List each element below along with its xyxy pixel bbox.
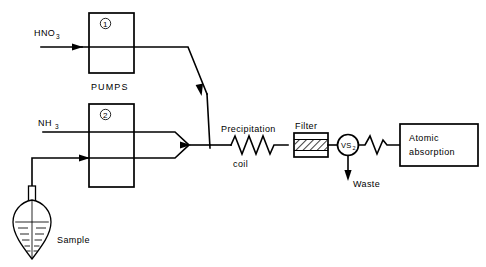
- detector-group: Atomic absorption: [400, 124, 478, 166]
- nh3-subscript: 3: [55, 123, 59, 130]
- pump-two-box: [89, 104, 134, 187]
- pump-one-box: [89, 13, 134, 73]
- sample-flask-group: Sample: [13, 186, 90, 259]
- hno3-subscript: 3: [56, 33, 60, 40]
- nh3-label: NH: [38, 118, 52, 128]
- flow-injection-diagram: 1 HNO 3 PUMPS 2 NH 3: [0, 0, 486, 267]
- pump-one-group: 1: [89, 13, 134, 73]
- precipitation-coil: [231, 136, 288, 154]
- hno3-descent-line: [207, 94, 210, 148]
- valve-group: VS 2: [338, 135, 359, 156]
- waste-arrowhead: [344, 170, 351, 181]
- pumps-label: PUMPS: [91, 82, 129, 92]
- detector-label-line2: absorption: [409, 147, 455, 157]
- diagram-canvas: 1 HNO 3 PUMPS 2 NH 3: [0, 0, 486, 267]
- pump-one-number: 1: [103, 20, 108, 29]
- filter-label: Filter: [295, 121, 317, 131]
- precipitation-coil-label-line2: coil: [233, 159, 248, 169]
- filter-membrane-hatch: [295, 140, 327, 151]
- valve-subscript: 2: [353, 145, 356, 151]
- sample-label: Sample: [57, 235, 90, 245]
- waste-label: Waste: [353, 179, 380, 189]
- hno3-transfer-arrowhead: [196, 84, 203, 96]
- detector-box: [400, 124, 478, 166]
- filter-group: Filter: [294, 121, 328, 157]
- pump-two-group: 2: [89, 104, 134, 187]
- detector-inlet-coil: [359, 136, 401, 154]
- hno3-label: HNO: [34, 28, 55, 38]
- valve-label: VS: [341, 141, 351, 150]
- detector-label-line1: Atomic: [409, 133, 439, 143]
- pump-two-number: 2: [103, 111, 108, 120]
- precipitation-coil-label-line1: Precipitation: [221, 124, 276, 134]
